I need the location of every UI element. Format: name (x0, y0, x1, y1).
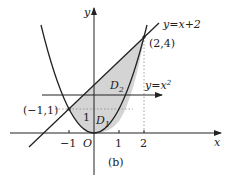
line-equation-label: y=x+2 (162, 18, 201, 31)
x-axis-label: x (214, 136, 221, 149)
parabola-equation-label: y=x2 (144, 79, 172, 92)
y-axis-label: y (83, 6, 91, 19)
figure-caption: (b) (108, 156, 124, 169)
x-tick-label-2: 2 (140, 137, 147, 150)
origin-label: O (83, 137, 92, 150)
point-2-4 (142, 35, 145, 38)
x-tick-label-neg1: −1 (60, 137, 76, 150)
point-label-neg1-1: (−1,1) (23, 104, 58, 117)
point-neg1-1 (67, 107, 70, 110)
integration-region-figure: y x O −1 1 2 1 (−1,1) (2,4) y=x+2 y=x2 D… (0, 0, 229, 179)
parabola-label-exponent: 2 (166, 79, 172, 87)
shaded-region (69, 37, 144, 133)
x-tick-label-1: 1 (115, 137, 122, 150)
y-tick-label-1: 1 (83, 111, 90, 124)
parabola-label-base: y=x (144, 79, 167, 92)
point-label-2-4: (2,4) (149, 37, 175, 50)
figure-canvas: y x O −1 1 2 1 (−1,1) (2,4) y=x+2 y=x2 D… (0, 0, 229, 179)
